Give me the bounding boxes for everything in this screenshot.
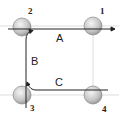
path-diagram: A B C 2 1 3 4 (0, 0, 119, 114)
path-label-b: B (31, 56, 38, 67)
path-label-c: C (55, 77, 63, 88)
ball-number-3: 3 (30, 104, 35, 113)
ball-number-4: 4 (102, 105, 107, 114)
path-label-a: A (56, 33, 63, 44)
diagram-canvas (0, 0, 119, 114)
ball-4 (84, 86, 102, 104)
ball-number-2: 2 (28, 7, 33, 16)
ball-1 (84, 17, 102, 35)
ball-3 (13, 86, 31, 104)
ball-number-1: 1 (100, 7, 105, 16)
